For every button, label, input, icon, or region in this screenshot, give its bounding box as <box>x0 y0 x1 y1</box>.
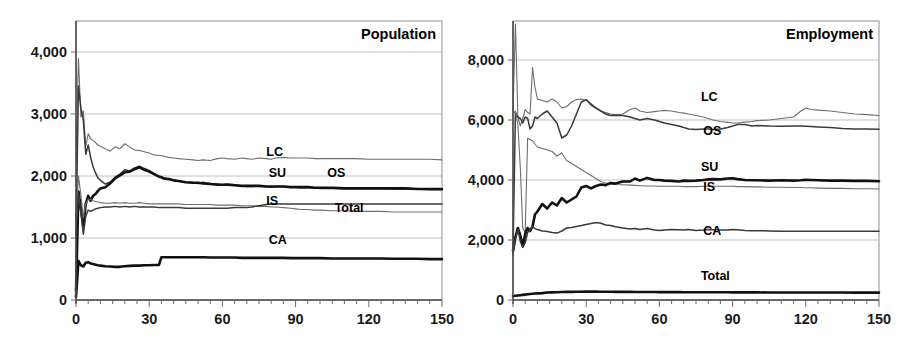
x-tick-label: 30 <box>141 311 157 327</box>
series-line-ca <box>76 257 442 297</box>
series-annotation-ca: CA <box>703 224 721 238</box>
series-line-is <box>76 176 442 226</box>
population-chart-svg: 01,0002,0003,0004,0000306090120150Popula… <box>0 0 454 347</box>
chart-panel-employment: 02,0004,0006,0008,0000306090120150Employ… <box>454 0 908 347</box>
y-tick-label: 2,000 <box>468 232 504 248</box>
y-tick-label: 6,000 <box>468 112 504 128</box>
series-annotation-su: SU <box>701 160 718 174</box>
series-annotation-total: Total <box>701 269 730 283</box>
x-tick-label: 60 <box>651 311 667 327</box>
x-tick-label: 0 <box>509 311 517 327</box>
series-annotation-os: OS <box>327 166 345 180</box>
series-line-os <box>76 86 442 238</box>
x-tick-label: 150 <box>430 311 454 327</box>
y-tick-label: 0 <box>59 292 67 308</box>
x-tick-label: 120 <box>357 311 381 327</box>
series-annotation-is: IS <box>703 180 715 194</box>
series-line-total <box>76 193 442 234</box>
y-tick-label: 0 <box>496 292 504 308</box>
series-line-lc <box>76 58 442 160</box>
series-annotation-total: Total <box>335 201 364 215</box>
figure-container: 01,0002,0003,0004,0000306090120150Popula… <box>0 0 908 347</box>
employment-chart-svg: 02,0004,0006,0008,0000306090120150Employ… <box>454 0 908 347</box>
plot-frame <box>513 21 879 300</box>
y-tick-label: 4,000 <box>31 44 67 60</box>
x-tick-label: 90 <box>288 311 304 327</box>
x-tick-label: 120 <box>794 311 818 327</box>
y-tick-label: 4,000 <box>468 172 504 188</box>
y-tick-label: 1,000 <box>31 230 67 246</box>
x-tick-label: 150 <box>867 311 891 327</box>
x-tick-label: 30 <box>578 311 594 327</box>
y-tick-label: 8,000 <box>468 52 504 68</box>
chart-title: Population <box>361 26 436 42</box>
y-tick-label: 3,000 <box>31 106 67 122</box>
series-line-ca <box>513 223 879 255</box>
series-line-su <box>76 167 442 290</box>
series-line-os <box>513 100 879 252</box>
x-tick-label: 0 <box>72 311 80 327</box>
series-annotation-os: OS <box>703 124 721 138</box>
chart-panel-population: 01,0002,0003,0004,0000306090120150Popula… <box>0 0 454 347</box>
series-annotation-su: SU <box>269 166 286 180</box>
chart-title: Employment <box>786 26 873 42</box>
y-tick-label: 2,000 <box>31 168 67 184</box>
series-line-total <box>513 292 879 297</box>
x-tick-label: 90 <box>725 311 741 327</box>
series-annotation-ca: CA <box>269 233 287 247</box>
series-annotation-is: IS <box>266 194 278 208</box>
series-annotation-lc: LC <box>266 145 283 159</box>
x-tick-label: 60 <box>214 311 230 327</box>
series-annotation-lc: LC <box>701 90 718 104</box>
